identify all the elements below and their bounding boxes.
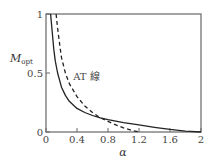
y-axis-label-sub: opt xyxy=(21,58,33,66)
chart: 00.40.81.21.6200.51 α Mopt AT 線 xyxy=(0,0,213,162)
y-axis-label-main: M xyxy=(9,52,22,65)
plot-frame xyxy=(46,14,201,132)
x-tick-label: 0.8 xyxy=(100,134,116,145)
x-tick-label: 0.4 xyxy=(69,134,85,145)
y-tick-label: 1 xyxy=(37,9,43,20)
x-axis-label: α xyxy=(119,146,127,159)
y-tick-label: 0.5 xyxy=(27,68,43,79)
x-tick-label: 2 xyxy=(198,134,204,145)
x-tick-label: 1.6 xyxy=(162,134,178,145)
x-tick-label: 1.2 xyxy=(131,134,147,145)
y-tick-label: 0 xyxy=(37,127,43,138)
y-axis-label: Mopt xyxy=(9,52,33,66)
at-line-annotation: AT 線 xyxy=(72,70,100,82)
x-tick-label: 0 xyxy=(43,134,49,145)
